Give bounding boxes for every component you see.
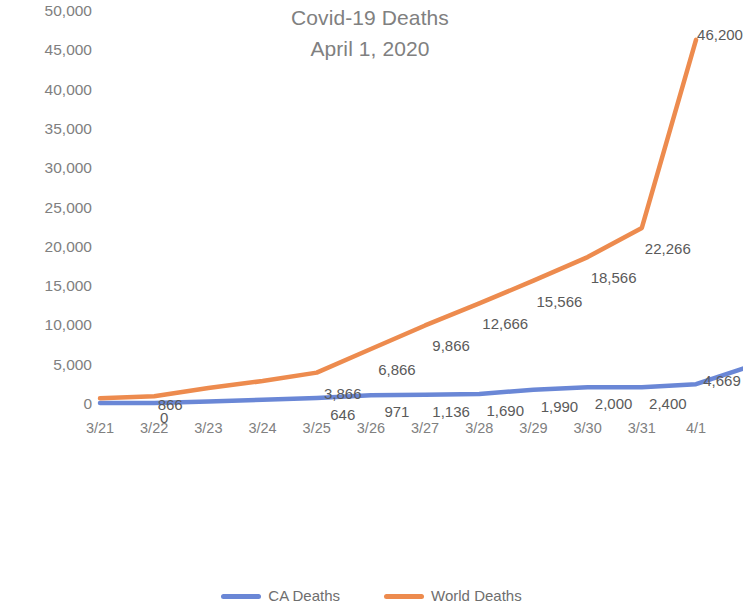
- data-label: 3,866: [324, 385, 362, 400]
- data-label: 1,990: [541, 398, 579, 413]
- chart-legend: CA DeathsWorld Deaths: [0, 588, 743, 604]
- data-label: 22,266: [645, 240, 691, 255]
- y-axis-tick: 40,000: [45, 82, 92, 97]
- data-label: 9,866: [432, 338, 470, 353]
- legend-label: World Deaths: [431, 588, 522, 604]
- data-label: 1,136: [432, 403, 470, 418]
- data-label: 2,000: [595, 396, 633, 411]
- y-axis-tick: 10,000: [45, 317, 92, 332]
- x-axis-tick: 4/1: [686, 418, 706, 438]
- y-axis-tick: 15,000: [45, 278, 92, 293]
- x-axis-tick: 3/23: [194, 418, 222, 438]
- series-line: [100, 366, 743, 403]
- legend-item[interactable]: World Deaths: [384, 588, 522, 604]
- data-label: 6,866: [378, 362, 416, 377]
- y-axis-tick: 5,000: [53, 357, 92, 372]
- y-axis: 05,00010,00015,00020,00025,00030,00035,0…: [0, 0, 100, 413]
- data-label: 4,669: [703, 373, 741, 388]
- data-label: 15,566: [537, 293, 583, 308]
- legend-swatch-icon: [221, 594, 261, 599]
- x-axis-tick: 3/25: [303, 418, 331, 438]
- x-axis-tick: 3/26: [357, 418, 385, 438]
- data-label: 46,200: [697, 26, 743, 41]
- x-axis-tick: 3/22: [140, 418, 168, 438]
- x-axis-tick: 3/28: [465, 418, 493, 438]
- covid-deaths-line-chart: Covid-19 Deaths April 1, 2020 05,00010,0…: [0, 0, 743, 611]
- data-label: 971: [384, 404, 409, 419]
- legend-item[interactable]: CA Deaths: [221, 588, 340, 604]
- legend-swatch-icon: [384, 594, 424, 599]
- y-axis-tick: 0: [83, 396, 92, 411]
- data-label: 18,566: [591, 270, 637, 285]
- data-label: 1,690: [486, 403, 524, 418]
- y-axis-tick: 20,000: [45, 239, 92, 254]
- y-axis-tick: 45,000: [45, 42, 92, 57]
- x-axis-tick: 3/31: [628, 418, 656, 438]
- data-label: 866: [158, 397, 183, 412]
- series-line: [100, 40, 696, 398]
- x-axis: 3/213/223/233/243/253/263/273/283/293/30…: [100, 418, 696, 444]
- legend-label: CA Deaths: [268, 588, 340, 604]
- data-label: 12,666: [482, 316, 528, 331]
- y-axis-tick: 50,000: [45, 3, 92, 18]
- x-axis-tick: 3/29: [519, 418, 547, 438]
- x-axis-tick: 3/27: [411, 418, 439, 438]
- y-axis-tick: 25,000: [45, 200, 92, 215]
- x-axis-tick: 3/24: [248, 418, 276, 438]
- y-axis-tick: 35,000: [45, 121, 92, 136]
- data-label: 2,400: [649, 396, 687, 411]
- x-axis-tick: 3/30: [574, 418, 602, 438]
- y-axis-tick: 30,000: [45, 160, 92, 175]
- x-axis-tick: 3/21: [86, 418, 114, 438]
- series-lines: [100, 10, 696, 403]
- plot-area: 06469711,1361,6901,9902,0002,4004,669866…: [100, 10, 696, 403]
